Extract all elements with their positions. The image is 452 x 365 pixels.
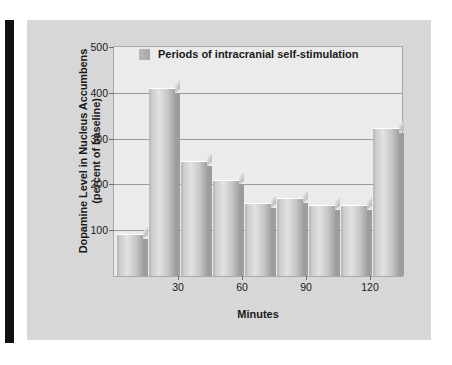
- x-axis-title: Minutes: [113, 308, 403, 320]
- y-axis-title: Dopamine Level in Nucleus Accumbens (per…: [77, 26, 103, 276]
- y-tick-label-200: 200: [90, 178, 108, 190]
- y-tickmark-400: [109, 93, 114, 94]
- bar-side-face: [335, 210, 340, 276]
- y-axis-title-line2: (percent of baseline): [90, 26, 103, 276]
- legend-label: Periods of intracranial self-stimulation: [158, 48, 359, 60]
- bar-side-face: [239, 185, 244, 276]
- left-black-rule: [5, 20, 14, 343]
- bar-top-face: [303, 191, 308, 203]
- x-tickmark-30: [178, 276, 179, 280]
- bar-side-face: [303, 203, 308, 276]
- bar: [117, 235, 143, 276]
- x-tickmark-60: [242, 276, 243, 280]
- y-tickmark-300: [109, 139, 114, 140]
- bar-top-edge: [117, 234, 143, 235]
- bar: [213, 181, 239, 276]
- bar-top-face: [175, 81, 180, 93]
- bar-top-edge: [213, 180, 239, 181]
- y-tick-label-500: 500: [90, 41, 108, 53]
- bar-top-edge: [341, 205, 367, 206]
- bar: [181, 162, 207, 277]
- bar-side-face: [367, 210, 372, 276]
- bar-side-face: [271, 208, 276, 276]
- bar-top-edge: [373, 128, 399, 129]
- y-tick-label-300: 300: [90, 133, 108, 145]
- x-tick-label-30: 30: [172, 281, 184, 293]
- chart-figure: Dopamine Level in Nucleus Accumbens (per…: [0, 0, 452, 365]
- x-tick-label-120: 120: [361, 281, 379, 293]
- y-tick-label-400: 400: [90, 87, 108, 99]
- bar-top-face: [367, 198, 372, 210]
- bar-side-face: [175, 93, 180, 276]
- bar-top-edge: [181, 161, 207, 162]
- bar: [277, 199, 303, 276]
- x-tick-label-60: 60: [236, 281, 248, 293]
- bar-top-face: [143, 227, 148, 239]
- bar-side-face: [399, 133, 404, 276]
- x-tickmark-120: [370, 276, 371, 280]
- legend: Periods of intracranial self-stimulation: [139, 48, 359, 60]
- y-tickmark-100: [109, 230, 114, 231]
- y-tick-label-100: 100: [90, 224, 108, 236]
- bar-top-edge: [245, 203, 271, 204]
- bar-top-face: [335, 198, 340, 210]
- figure-panel: Dopamine Level in Nucleus Accumbens (per…: [27, 20, 431, 340]
- bar-top-face: [399, 120, 404, 132]
- bar: [309, 206, 335, 276]
- bar-side-face: [207, 166, 212, 277]
- bar: [149, 89, 175, 276]
- y-axis-title-line1: Dopamine Level in Nucleus Accumbens: [77, 49, 89, 254]
- bar-top-face: [271, 195, 276, 207]
- y-tickmark-200: [109, 184, 114, 185]
- plot-area: 100200300400500306090120: [113, 46, 403, 277]
- bar-top-face: [207, 153, 212, 165]
- bar-top-edge: [277, 198, 303, 199]
- bar: [373, 129, 399, 276]
- bar-side-face: [143, 239, 148, 276]
- bar: [341, 206, 367, 276]
- x-tickmark-90: [306, 276, 307, 280]
- y-tickmark-500: [109, 47, 114, 48]
- bar-top-face: [239, 173, 244, 185]
- bar-top-edge: [149, 88, 175, 89]
- x-tick-label-90: 90: [300, 281, 312, 293]
- bar-top-edge: [309, 205, 335, 206]
- bar: [245, 204, 271, 276]
- legend-swatch-icon: [139, 49, 150, 60]
